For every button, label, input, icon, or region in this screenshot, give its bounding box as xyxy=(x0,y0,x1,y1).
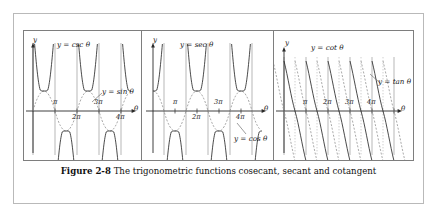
secant-y-axis-arrow xyxy=(151,43,155,47)
cos-label-leader xyxy=(237,123,246,134)
figure-caption-text: The trigonometric functions cosecant, se… xyxy=(114,166,377,176)
csc-curve xyxy=(35,44,131,160)
sin-label-leader xyxy=(92,93,102,102)
panel-cosecant: y θ y = csc θ y = sin θ π 2π 3π 4π xyxy=(24,31,142,160)
panel-cotangent: y θ y = cot θ y = tan θ π 2π 3π 4π xyxy=(274,31,413,160)
cosecant-plot-svg xyxy=(24,31,141,160)
sec-curve xyxy=(153,44,262,160)
cosecant-x-axis-arrow xyxy=(132,109,136,113)
tan-curve xyxy=(274,61,405,160)
cotangent-axes xyxy=(276,49,400,153)
panel-secant: y θ y = sec θ y = cos θ π 2π 3π 4π xyxy=(142,31,274,160)
cotangent-plot-svg xyxy=(274,31,413,160)
figure-frame: y θ y = csc θ y = sin θ π 2π 3π 4π xyxy=(13,13,424,204)
cotangent-y-axis-arrow xyxy=(282,47,286,51)
secant-plot-svg xyxy=(142,31,273,160)
figure-caption: Figure 2-8 The trigonometric functions c… xyxy=(23,166,414,176)
figure-caption-number: Figure 2-8 xyxy=(61,166,111,176)
plots-band: y θ y = csc θ y = sin θ π 2π 3π 4π xyxy=(23,30,414,161)
cotangent-x-axis-arrow xyxy=(398,109,402,113)
secant-asymptotes xyxy=(164,43,252,155)
cosecant-asymptotes xyxy=(33,43,121,155)
secant-x-axis-arrow xyxy=(262,109,266,113)
